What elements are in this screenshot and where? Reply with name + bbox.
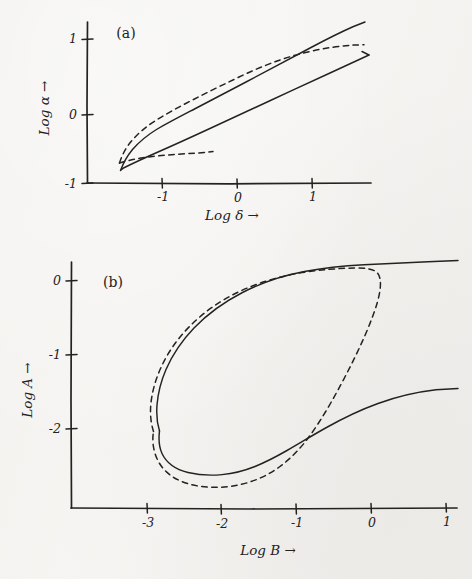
panel-b-solid-lower-branch [159, 389, 458, 476]
panel-b-y-axis [71, 262, 72, 508]
panel-b-xtick-label-1: 1 [443, 514, 451, 529]
panel-b-x-axis [71, 508, 457, 509]
figure-root: 1 0 -1 -1 0 1 Log δ → Log α → (a) [0, 0, 472, 579]
panel-b-xtick-label--1: -1 [291, 515, 303, 530]
panel-b-solid-upper-branch [157, 261, 458, 432]
panel-b-y-axis-title: Log A → [19, 362, 35, 418]
panel-b-xtick-label--2: -2 [216, 516, 228, 531]
panel-b-dashed-curve [151, 268, 381, 487]
panel-b-label: (b) [103, 274, 123, 290]
panel-b-xtick-label-0: 0 [368, 515, 376, 530]
panel-b-x-axis-title: Log B → [239, 542, 296, 558]
panel-b-xtick-label--3: -3 [142, 515, 154, 530]
panel-b-chart: 0 -1 -2 -3 -2 -1 0 1 Log B → Log A → (b) [0, 0, 472, 579]
panel-b-ytick-label--1: -1 [49, 347, 61, 362]
panel-b-ytick-label--2: -2 [49, 421, 61, 436]
panel-b-group: 0 -1 -2 -3 -2 -1 0 1 Log B → Log A → (b) [19, 261, 459, 558]
panel-b-ytick-label-0: 0 [53, 273, 61, 288]
panel-b-ytick-0 [66, 281, 77, 282]
